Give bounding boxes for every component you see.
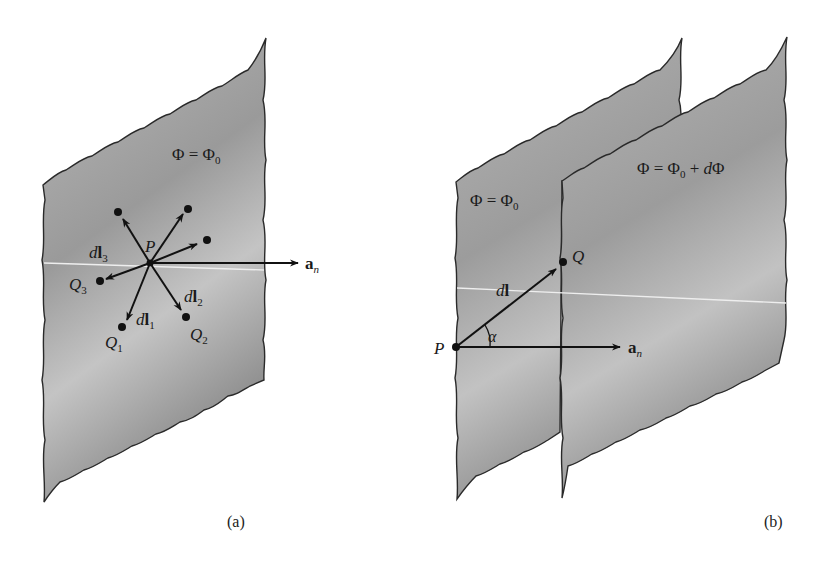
- potential-surfaces-figure: Φ = Φ0 P dl3 Q3 dl2: [0, 0, 821, 561]
- angle-alpha-label: α: [488, 328, 497, 345]
- point-q2: [182, 313, 190, 321]
- point-p: [452, 343, 460, 351]
- point-q: [559, 258, 567, 266]
- back-surface-label: Φ = Φ0: [470, 191, 519, 212]
- panel-b: Φ = Φ0 Φ = Φ0 + dΦ P Q dl α an (b): [433, 37, 787, 531]
- point-q3: [96, 277, 104, 285]
- point-q1: [118, 323, 126, 331]
- caption-a: (a): [227, 513, 245, 531]
- caption-b: (b): [764, 513, 783, 531]
- point-q-label: Q: [572, 247, 584, 266]
- point-p-label: P: [433, 339, 444, 358]
- point-p: [147, 260, 154, 267]
- normal-vector-label: an: [305, 254, 320, 275]
- dl-label: dl: [496, 281, 510, 300]
- panel-a: Φ = Φ0 P dl3 Q3 dl2: [42, 38, 320, 531]
- point-p-label: P: [144, 237, 155, 256]
- surface-label: Φ = Φ0: [172, 145, 221, 166]
